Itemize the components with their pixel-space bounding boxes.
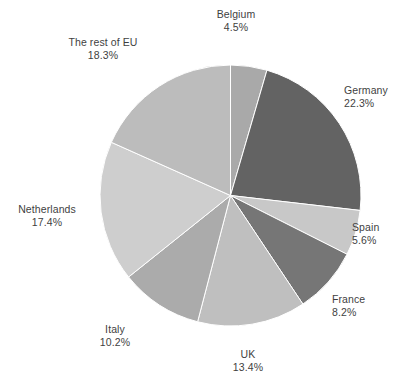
pie-label-uk: UK 13.4%	[213, 348, 283, 374]
pie-slice-group	[100, 65, 361, 326]
pie-label-belgium-name: Belgium	[186, 8, 286, 21]
pie-label-uk-name: UK	[213, 348, 283, 361]
pie-label-france: France 8.2%	[332, 293, 394, 319]
pie-label-spain-name: Spain	[352, 221, 410, 234]
pie-label-spain-percent: 5.6%	[352, 234, 410, 247]
pie-label-rest-of-eu-percent: 18.3%	[52, 49, 154, 62]
pie-label-netherlands-name: Netherlands	[8, 203, 86, 216]
pie-label-italy-percent: 10.2%	[80, 336, 150, 349]
pie-label-germany-percent: 22.3%	[344, 97, 412, 110]
pie-label-spain: Spain 5.6%	[352, 221, 410, 247]
pie-label-belgium-percent: 4.5%	[186, 21, 286, 34]
pie-label-rest-of-eu: The rest of EU 18.3%	[52, 36, 154, 62]
pie-label-germany-name: Germany	[344, 84, 412, 97]
pie-label-italy: Italy 10.2%	[80, 323, 150, 349]
pie-label-uk-percent: 13.4%	[213, 361, 283, 374]
pie-label-rest-of-eu-name: The rest of EU	[52, 36, 154, 49]
pie-label-france-name: France	[332, 293, 394, 306]
pie-label-italy-name: Italy	[80, 323, 150, 336]
pie-label-belgium: Belgium 4.5%	[186, 8, 286, 34]
pie-chart: Belgium 4.5% Germany 22.3% Spain 5.6% Fr…	[0, 0, 416, 386]
pie-label-france-percent: 8.2%	[332, 306, 394, 319]
pie-label-germany: Germany 22.3%	[344, 84, 412, 110]
pie-label-netherlands: Netherlands 17.4%	[8, 203, 86, 229]
pie-label-netherlands-percent: 17.4%	[8, 216, 86, 229]
